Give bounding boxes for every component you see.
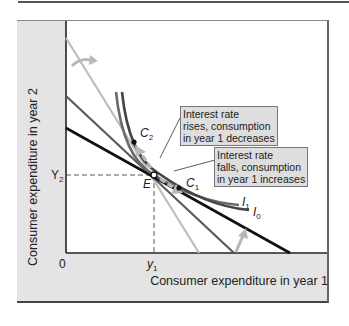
label-c1: C1 — [186, 176, 199, 192]
label-e: E — [143, 177, 151, 191]
label-i0: I0 — [253, 205, 261, 221]
y-axis-label: Consumer expenditure in year 2 — [26, 88, 40, 266]
x-axis-label: Consumer expenditure in year 1 — [150, 274, 328, 288]
point-c1 — [176, 185, 181, 190]
callout-rate-rises: Interest rate rises, consumption in year… — [180, 106, 278, 146]
label-i1: I1 — [242, 195, 250, 211]
origin-label: 0 — [59, 257, 66, 271]
point-c2 — [131, 139, 136, 144]
y2-tick-label: Y2 — [51, 168, 63, 184]
y1-tick-label: y1 — [147, 257, 157, 273]
callout-rate-falls: Interest rate falls, consumption in year… — [214, 147, 308, 187]
label-c2: C2 — [140, 126, 153, 142]
point-e — [151, 172, 157, 178]
